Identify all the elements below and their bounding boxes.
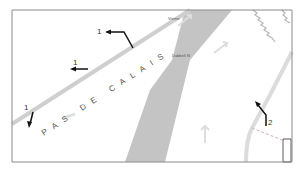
arrow-2b-head (255, 101, 261, 107)
arrow-1b-head (27, 121, 32, 128)
marker-label-2b: 2 (268, 118, 272, 127)
zigzag-boundary (253, 10, 275, 42)
zigzag-boundary-2 (282, 10, 290, 23)
corner-box (283, 139, 291, 162)
arrow-2a-head (105, 30, 111, 35)
marker-label-2a: 1 (97, 27, 101, 36)
faint-arrow-icon (201, 126, 209, 143)
faint-arrow-icon (214, 42, 227, 53)
marker-label-1a: 1 (73, 58, 77, 67)
dashed-line (252, 128, 282, 140)
arrow-2a-icon (109, 32, 133, 48)
road-band (125, 10, 232, 162)
marker-label-1b: 1 (24, 103, 28, 112)
place-label-middle: Dubbelt N (172, 53, 190, 58)
map-canvas (0, 0, 302, 169)
place-label-top: Vierne (168, 16, 180, 21)
arrow-1a-head (70, 67, 76, 72)
